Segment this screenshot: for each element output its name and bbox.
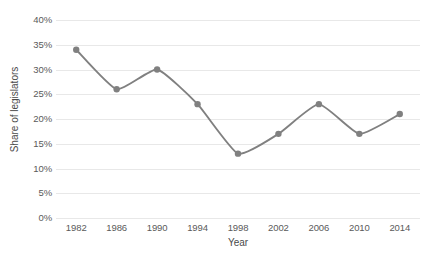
series-line xyxy=(76,50,400,154)
x-axis-tick-label: 2010 xyxy=(337,222,381,233)
cropped-caption-text xyxy=(60,258,426,266)
data-point: 2002: 17% xyxy=(275,131,281,137)
data-point: 2010: 17% xyxy=(356,131,362,137)
data-point: 1990: 30% xyxy=(154,66,160,72)
x-axis-tick-label: 1990 xyxy=(135,222,179,233)
x-axis-tick-label: 1998 xyxy=(216,222,260,233)
data-point: 1994: 23% xyxy=(194,101,200,107)
line-chart: 0%5%10%15%20%25%30%35%40% Share of legis… xyxy=(0,0,426,266)
x-axis-tick-label: 2014 xyxy=(378,222,422,233)
x-axis-tick-label: 2006 xyxy=(297,222,341,233)
data-point: 2006: 23% xyxy=(316,101,322,107)
x-axis-tick-label: 1982 xyxy=(54,222,98,233)
x-axis-tick-label: 1994 xyxy=(176,222,220,233)
data-point: 1982: 34% xyxy=(73,47,79,53)
x-axis-tick-label: 1986 xyxy=(95,222,139,233)
x-axis-tick-label: 2002 xyxy=(256,222,300,233)
x-axis-tick-labels: 198219861990199419982002200620102014 xyxy=(56,222,420,236)
series-markers: 1982: 34%1986: 26%1990: 30%1994: 23%1998… xyxy=(73,47,403,157)
data-point: 1998: 13% xyxy=(235,150,241,156)
data-point: 1986: 26% xyxy=(113,86,119,92)
data-point: 2014: 21% xyxy=(397,111,403,117)
x-axis-title: Year xyxy=(56,237,420,248)
